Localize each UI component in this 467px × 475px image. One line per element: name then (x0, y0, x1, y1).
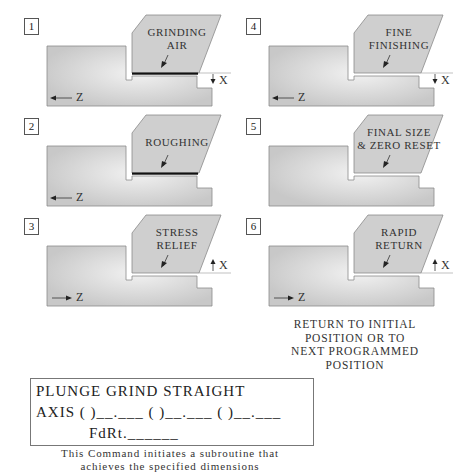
x-axis-label: X (441, 73, 450, 88)
grinding-diagram (222, 100, 456, 205)
command-box: PLUNGE GRIND STRAIGHT AXIS ( )__.___ ( )… (30, 378, 314, 446)
step-number: 1 (24, 18, 39, 35)
step-number: 4 (246, 18, 261, 35)
z-axis-label: Z (298, 290, 305, 305)
x-up-arrow-icon (433, 259, 438, 271)
wheel-label-line: ROUGHING (134, 136, 220, 149)
wheel-label-line: STRESS (134, 226, 220, 239)
command-axis-line: AXIS ( )__.___ ( )__.___ ( )__.___ (36, 404, 281, 421)
wheel-label: FINEFINISHING (356, 26, 442, 52)
wheel-label-line: RAPID (356, 226, 442, 239)
return-note-line: NEXT PROGRAMMED (240, 345, 467, 359)
step-panel-4: 4FINEFINISHINGZX (222, 0, 456, 105)
wheel-label-line: RETURN (356, 239, 442, 252)
caption-line: This Command initiates a subroutine that (20, 447, 320, 460)
grinding-diagram (222, 200, 456, 305)
grinding-diagram (222, 0, 456, 105)
wheel-label: ROUGHING (134, 136, 220, 149)
z-axis-label: Z (76, 290, 83, 305)
wheel-label-line: FINE (356, 26, 442, 39)
step-number: 6 (246, 218, 261, 235)
caption-line: achieves the specified dimensions (20, 460, 320, 473)
return-note-line: POSITION (240, 359, 467, 373)
grinding-diagram (0, 100, 234, 205)
step-panel-5: 5FINAL SIZE& ZERO RESET (222, 100, 456, 205)
wheel-label: STRESSRELIEF (134, 226, 220, 252)
step-number: 3 (24, 218, 39, 235)
wheel-label-line: RELIEF (134, 239, 220, 252)
step-panel-1: 1GRINDINGAIRZX (0, 0, 234, 105)
grinding-diagram (0, 200, 234, 305)
wheel-label-line: FINISHING (356, 39, 442, 52)
step-panel-2: 2ROUGHINGZ (0, 100, 234, 205)
caption: This Command initiates a subroutine that… (20, 447, 320, 473)
return-note-line: RETURN TO INITIAL (240, 318, 467, 332)
step-panel-3: 3STRESSRELIEFZX (0, 200, 234, 305)
wheel-label-line: AIR (134, 39, 220, 52)
wheel-label: RAPIDRETURN (356, 226, 442, 252)
command-title: PLUNGE GRIND STRAIGHT (36, 383, 245, 400)
grinding-diagram (0, 0, 234, 105)
return-note-line: POSITION OR TO (240, 332, 467, 346)
wheel-label: FINAL SIZE& ZERO RESET (356, 126, 442, 152)
wheel-label-line: FINAL SIZE (356, 126, 442, 139)
grinding-gap (132, 173, 198, 175)
grinding-gap (132, 73, 198, 75)
x-up-arrow-icon (211, 259, 216, 271)
x-down-arrow-icon (433, 74, 438, 84)
wheel-label-line: & ZERO RESET (356, 139, 442, 152)
x-axis-label: X (441, 258, 450, 273)
command-feed-line: FdRt.______ (89, 425, 179, 442)
x-down-arrow-icon (211, 74, 216, 84)
step-number: 5 (246, 118, 261, 135)
return-note: RETURN TO INITIAL POSITION OR TO NEXT PR… (240, 318, 467, 372)
step-panel-6: 6RAPIDRETURNZX (222, 200, 456, 305)
step-number: 2 (24, 118, 39, 135)
wheel-label-line: GRINDING (134, 26, 220, 39)
wheel-label: GRINDINGAIR (134, 26, 220, 52)
